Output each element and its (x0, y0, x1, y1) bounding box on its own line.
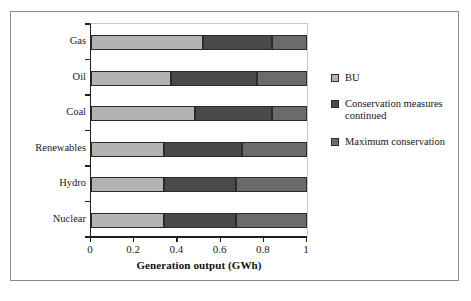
x-axis-title: Generation output (GWh) (71, 259, 327, 271)
bar-segment (236, 177, 307, 192)
x-axis-tick (133, 237, 134, 242)
x-axis-tick-label: 0.2 (113, 243, 153, 255)
bar-segment (272, 106, 307, 121)
bar-row (91, 177, 307, 192)
x-axis-tick-label: 0.4 (156, 243, 196, 255)
bar-row (91, 213, 307, 228)
category-label-hydro: Hydro (12, 177, 86, 189)
bar-segment (203, 35, 272, 50)
bar-segment (91, 106, 195, 121)
bar-row (91, 142, 307, 157)
bar-segment (195, 106, 273, 121)
legend-entry[interactable]: BU (331, 72, 457, 85)
bar-segment (272, 35, 307, 50)
bar-row (91, 106, 307, 121)
legend-swatch-icon (331, 74, 339, 82)
bar-segment (242, 142, 307, 157)
bar-segment (164, 213, 235, 228)
chart-legend: BUConservation measures continuedMaximum… (331, 72, 457, 161)
category-label-nuclear: Nuclear (12, 213, 86, 225)
x-axis-tick (220, 237, 221, 242)
category-axis-labels: GasOilCoalRenewablesHydroNuclear (11, 23, 86, 236)
legend-label: Maximum conservation (345, 136, 445, 147)
chart-figure: GasOilCoalRenewablesHydroNuclear 00.20.4… (10, 11, 459, 281)
bar-row (91, 35, 307, 50)
legend-label: BU (345, 72, 360, 83)
x-axis-tick-label: 0 (70, 243, 110, 255)
legend-entry[interactable]: Conservation measures continued (331, 98, 457, 123)
legend-entry[interactable]: Maximum conservation (331, 136, 457, 149)
y-axis-tick (85, 59, 90, 61)
bar-segment (236, 213, 307, 228)
category-label-oil: Oil (12, 71, 86, 83)
legend-label: Conservation measures continued (345, 98, 443, 122)
bar-segment (164, 177, 235, 192)
bar-segment (164, 142, 242, 157)
legend-swatch-icon (331, 100, 339, 108)
legend-swatch-icon (331, 138, 339, 146)
x-axis-tick (306, 237, 307, 242)
bar-row (91, 71, 307, 86)
bar-segment (91, 213, 164, 228)
bar-segment (171, 71, 257, 86)
y-axis-tick (85, 23, 90, 25)
bar-segment (91, 71, 171, 86)
x-axis-tick (176, 237, 177, 242)
x-axis-line (90, 236, 307, 238)
x-axis-tick (263, 237, 264, 242)
y-axis-tick (85, 130, 90, 132)
y-axis-tick (85, 236, 90, 238)
bar-segment (91, 142, 164, 157)
category-label-renewables: Renewables (12, 142, 86, 154)
y-axis-tick (85, 165, 90, 167)
x-axis-tick-label: 1 (286, 243, 326, 255)
y-axis-tick (85, 94, 90, 96)
y-axis-tick (85, 201, 90, 203)
bar-segment (91, 177, 164, 192)
category-label-gas: Gas (12, 35, 86, 47)
bar-segment (257, 71, 307, 86)
plot-area (90, 23, 308, 237)
category-label-coal: Coal (12, 106, 86, 118)
x-axis-tick (90, 237, 91, 242)
bar-segment (91, 35, 203, 50)
x-axis-tick-label: 0.6 (200, 243, 240, 255)
x-axis-tick-label: 0.8 (243, 243, 283, 255)
